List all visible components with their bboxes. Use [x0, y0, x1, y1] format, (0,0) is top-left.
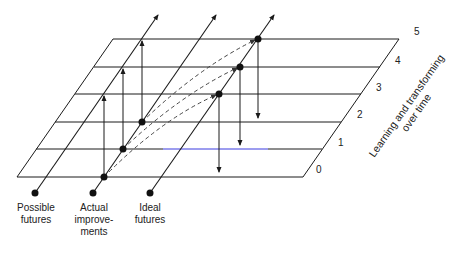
- possible-futures-line: [35, 15, 158, 193]
- actual-dot-level-0: [101, 174, 108, 181]
- possible-futures-label: Possible futures: [10, 202, 62, 226]
- plane-left-edge: [17, 39, 113, 177]
- actual-improvements-label: Actual improve- ments: [66, 202, 122, 238]
- ideal-dot-level-4: [237, 64, 244, 71]
- possible-futures-origin-dot: [32, 190, 39, 197]
- level-label-4: 4: [395, 55, 401, 66]
- level-label-1: 1: [338, 137, 344, 148]
- ideal-dot-level-3: [216, 91, 223, 98]
- ideal-futures-label-line2: futures: [124, 214, 176, 226]
- trajectory-lines: [35, 15, 274, 193]
- actual-dot-level-2: [139, 119, 146, 126]
- dashed-curve-1: [104, 95, 216, 177]
- grid-levels: [17, 39, 399, 177]
- actual-improvements-label-line3: ments: [66, 226, 122, 238]
- ideal-dot-level-5: [255, 36, 262, 43]
- actual-improvements-label-line1: Actual: [66, 202, 122, 214]
- down-arrows: [219, 39, 258, 172]
- actual-improvements-label-line2: improve-: [66, 214, 122, 226]
- ideal-futures-line: [150, 15, 274, 193]
- level-label-0: 0: [316, 164, 322, 175]
- ideal-futures-label-line1: Ideal: [124, 202, 176, 214]
- possible-futures-label-line1: Possible: [10, 202, 62, 214]
- up-arrows: [104, 41, 142, 177]
- actual-dot-level-1: [120, 146, 127, 153]
- level-label-5: 5: [414, 26, 420, 37]
- ideal-futures-origin-dot: [147, 190, 154, 197]
- ideal-futures-label: Ideal futures: [124, 202, 176, 226]
- level-label-3: 3: [376, 82, 382, 93]
- dashed-curve-2: [123, 68, 237, 149]
- actual-improvements-origin-dot: [90, 190, 97, 197]
- dashed-curve-3: [142, 40, 255, 122]
- possible-futures-label-line2: futures: [10, 214, 62, 226]
- level-label-2: 2: [357, 109, 363, 120]
